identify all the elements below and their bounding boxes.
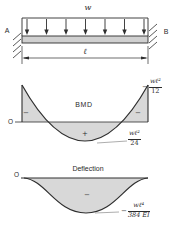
support-a-label: A [1,27,13,34]
bmd-support-moment-value: − wℓ² 12 [142,76,162,98]
bmd-leader-line [97,141,127,143]
bmd-negative-left-sign: − [20,110,32,117]
figure-canvas [0,0,177,235]
span-length-label: ℓ [78,48,92,56]
deflection-leader-line [95,212,119,213]
support-b-label: B [159,28,173,35]
fixed-beam-analysis-figure: w A B ℓ BMD O − − + − wℓ² 12 wℓ² 24 Defl… [0,0,177,235]
bmd-midspan-moment-value: wℓ² 24 [128,128,141,150]
midspan-moment-denominator: 24 [128,140,141,148]
max-deflection-value: − wℓ⁴ 384 EI [121,200,150,222]
support-moment-fraction: wℓ² 12 [149,78,162,96]
load-arrow [83,30,87,36]
load-arrow [103,30,107,36]
load-arrow [122,30,126,36]
load-arrow [25,30,29,36]
load-label: w [80,4,96,12]
max-deflection-sign: − [121,207,127,215]
midspan-moment-fraction: wℓ² 24 [128,130,141,148]
support-moment-sign: − [142,83,148,91]
load-arrow [142,30,146,36]
load-arrow [64,30,68,36]
beam-loading-diagram [13,18,157,64]
bmd-title: BMD [66,101,102,108]
dimension-arrow-left [22,56,29,59]
support-moment-denominator: 12 [149,88,162,96]
load-arrows [25,19,146,35]
deflection-title: Deflection [58,165,118,172]
bmd-negative-right-sign: − [132,110,144,117]
max-deflection-fraction: wℓ⁴ 384 EI [128,202,150,220]
load-arrow [44,30,48,36]
bmd-positive-sign: + [79,131,91,138]
beam-bar [22,36,148,43]
bmd-origin-label: O [5,119,16,126]
fixed-support-left-hatch [13,33,21,58]
deflection-negative-sign: − [81,192,93,199]
deflection-origin-label: O [11,172,22,179]
max-deflection-denominator: 384 EI [128,212,150,220]
fixed-support-right-hatch [149,24,157,49]
dimension-arrow-right [141,56,148,59]
